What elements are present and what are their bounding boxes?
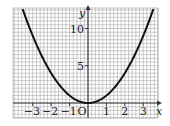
y-axis-arrow-icon — [86, 5, 91, 10]
y-tick-label: 10 — [70, 23, 84, 36]
origin-label: O — [77, 105, 86, 118]
grid — [13, 8, 158, 118]
y-axis-label: y — [78, 7, 86, 20]
parabola-chart: −3−2−1123510Oxy — [0, 0, 170, 126]
x-tick-label: 3 — [140, 105, 147, 118]
x-tick-label: −1 — [60, 105, 76, 118]
x-tick-label: 2 — [121, 105, 128, 118]
x-tick-label: −2 — [42, 105, 58, 118]
x-tick-label: −3 — [24, 105, 40, 118]
x-axis-label: x — [156, 105, 163, 118]
x-tick-label: 1 — [103, 105, 110, 118]
y-tick-label: 5 — [77, 60, 84, 73]
